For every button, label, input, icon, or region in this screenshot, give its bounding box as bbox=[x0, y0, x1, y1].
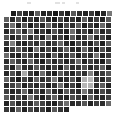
heatmap-grid bbox=[4, 11, 114, 115]
header-mark-1 bbox=[55, 2, 60, 4]
heatmap-row bbox=[4, 107, 70, 113]
header-mark-3 bbox=[76, 2, 79, 4]
heatmap-figure bbox=[0, 0, 122, 119]
header-mark-0 bbox=[27, 2, 31, 4]
header-mark-2 bbox=[62, 2, 65, 4]
heatmap-cell bbox=[106, 101, 112, 107]
header-faint-marks bbox=[0, 0, 122, 10]
heatmap-cell bbox=[64, 107, 70, 113]
